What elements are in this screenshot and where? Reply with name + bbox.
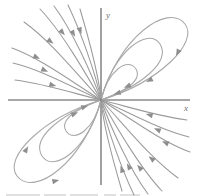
trajectory-ray-lower-right-1 [101, 100, 190, 152]
arrowhead-loop-upper-right-outer-1 [174, 48, 182, 57]
critical-point-origin [100, 99, 103, 102]
phase-portrait-figure: x y [0, 0, 200, 196]
trajectory-ray-upper-left-3 [15, 80, 101, 100]
trajectory-ray-lower-right-6 [101, 100, 148, 194]
arrowhead-loop-lower-left-outer-1 [52, 177, 60, 184]
trajectory-loop-upper-right-outer [101, 18, 188, 100]
trajectory-ray-upper-left-1 [12, 48, 101, 100]
y-axis-label: y [105, 10, 110, 20]
trajectory-loop-lower-left-outer [14, 100, 101, 182]
trajectory-ray-upper-left-6 [54, 6, 101, 100]
x-axis-label: x [183, 103, 188, 113]
phase-portrait-plot: x y [0, 0, 200, 196]
trajectory-loop-upper-right-middle [101, 38, 162, 100]
trajectory-ray-lower-right-3 [101, 100, 187, 120]
trajectory-loop-lower-left-middle [40, 100, 101, 162]
